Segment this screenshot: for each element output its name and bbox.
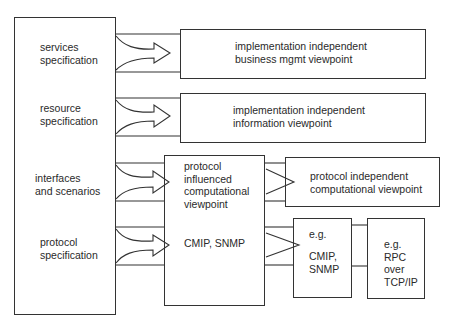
cmip-snmp-label: CMIP, SNMP — [309, 250, 339, 275]
protocol-influenced-viewpoint-label: protocol influenced computational viewpo… — [184, 160, 249, 210]
protocol-influenced-example-label: CMIP, SNMP — [184, 237, 245, 250]
curved-arrow-icon — [116, 165, 169, 199]
business-mgmt-viewpoint-label: implementation independent business mgmt… — [235, 40, 367, 65]
label-resource-specification: resource specification — [40, 102, 98, 127]
rpc-tcpip-label: e.g. RPC over TCP/IP — [384, 238, 418, 288]
curved-arrow-icon — [116, 36, 170, 70]
label-services-specification: services specification — [40, 41, 98, 66]
label-interfaces-and-scenarios: interfaces and scenarios — [35, 172, 100, 197]
protocol-independent-viewpoint-label: protocol independent computational viewp… — [310, 170, 422, 195]
curved-arrow-icon — [116, 100, 170, 134]
cmip-snmp-eg-label: e.g. — [309, 228, 327, 241]
curved-arrow-icon — [116, 229, 169, 263]
information-viewpoint-label: implementation independent information v… — [233, 104, 365, 129]
label-protocol-specification: protocol specification — [40, 236, 98, 261]
